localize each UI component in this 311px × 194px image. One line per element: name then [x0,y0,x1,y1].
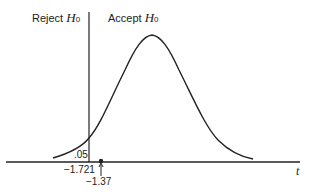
h-letter: H [66,10,75,25]
axis-variable-label: t [296,164,299,179]
tail-area-label: .05 [74,149,88,160]
t-distribution-diagram: Reject H0 Accept H0 .05 −1.721 −1.37 t [0,0,311,194]
diagram-graphics [0,0,311,194]
h-subscript: 0 [76,15,80,24]
accept-label: Accept H0 [108,10,159,26]
reject-label: Reject H0 [32,10,80,26]
observed-value-label: −1.37 [86,176,111,187]
hypothesis-symbol: H0 [66,10,80,25]
critical-value-label: −1.721 [64,164,95,175]
h-subscript: 0 [154,15,158,24]
density-curve [53,35,253,159]
hypothesis-symbol: H0 [145,10,159,25]
accept-text: Accept [108,12,142,24]
h-letter: H [145,10,154,25]
reject-text: Reject [32,12,63,24]
